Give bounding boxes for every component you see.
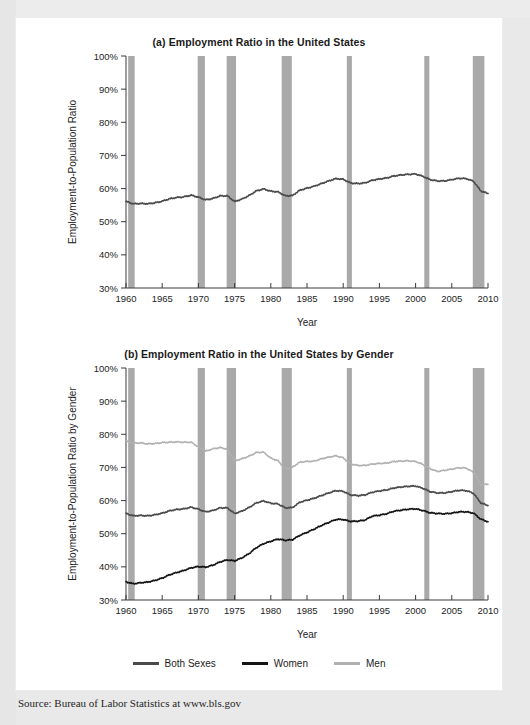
legend-swatch-women — [242, 662, 268, 665]
recession-band — [347, 368, 352, 600]
x-tick-label: 2010 — [477, 293, 498, 304]
recession-band — [198, 56, 205, 288]
x-tick-label: 1960 — [115, 293, 136, 304]
y-tick-label: 60% — [99, 495, 119, 506]
legend-item-men: Men — [334, 658, 385, 669]
legend-swatch-men — [334, 662, 360, 665]
chart-panel-a: (a) Employment Ratio in the United State… — [16, 36, 502, 346]
source-note: Source: Bureau of Labor Statistics at ww… — [18, 697, 241, 709]
y-tick-label: 80% — [99, 117, 119, 128]
x-tick-label: 1980 — [260, 293, 281, 304]
recession-band — [282, 56, 292, 288]
recession-band — [282, 368, 292, 600]
series-line-women — [126, 508, 488, 584]
x-axis-title: Year — [297, 317, 318, 328]
y-tick-label: 90% — [99, 84, 119, 95]
y-tick-label: 40% — [99, 249, 119, 260]
legend-item-women: Women — [242, 658, 308, 669]
y-tick-label: 100% — [94, 51, 119, 62]
y-tick-label: 70% — [99, 150, 119, 161]
recession-band — [473, 56, 485, 288]
x-tick-label: 1985 — [296, 605, 317, 616]
recession-band — [227, 56, 236, 288]
y-tick-label: 60% — [99, 183, 119, 194]
series-line-both-sexes — [126, 486, 488, 517]
recession-band — [424, 368, 429, 600]
y-tick-label: 40% — [99, 561, 119, 572]
chart-legend: Both Sexes Women Men — [16, 658, 502, 669]
x-tick-label: 1995 — [369, 605, 390, 616]
x-tick-label: 1975 — [224, 293, 245, 304]
series-line-both-sexes — [126, 173, 488, 204]
x-tick-label: 1990 — [333, 293, 354, 304]
legend-item-both-sexes: Both Sexes — [133, 658, 216, 669]
y-axis-title: Employment-to-Population Ratio — [67, 100, 78, 244]
x-tick-label: 1995 — [369, 293, 390, 304]
y-tick-label: 70% — [99, 462, 119, 473]
chart-a-title: (a) Employment Ratio in the United State… — [16, 36, 502, 48]
legend-label-men: Men — [366, 658, 385, 669]
x-tick-label: 2005 — [441, 605, 462, 616]
chart-b-title: (b) Employment Ratio in the United State… — [16, 348, 502, 360]
x-tick-label: 1970 — [188, 293, 209, 304]
y-tick-label: 30% — [99, 283, 119, 294]
x-tick-label: 1980 — [260, 605, 281, 616]
chart-panel-b: (b) Employment Ratio in the United State… — [16, 348, 502, 648]
legend-swatch-both-sexes — [133, 662, 159, 665]
y-tick-label: 90% — [99, 396, 119, 407]
y-tick-label: 30% — [99, 595, 119, 606]
x-tick-label: 1970 — [188, 605, 209, 616]
y-tick-label: 50% — [99, 216, 119, 227]
x-tick-label: 2005 — [441, 293, 462, 304]
y-axis-title: Employment-to-Population Ratio by Gender — [67, 387, 78, 581]
x-tick-label: 1975 — [224, 605, 245, 616]
chart-b-svg: 30%40%50%60%70%80%90%100%196019651970197… — [16, 360, 502, 640]
x-tick-label: 1965 — [152, 605, 173, 616]
x-axis-title: Year — [297, 629, 318, 640]
recession-band — [198, 368, 205, 600]
chart-a-svg: 30%40%50%60%70%80%90%100%196019651970197… — [16, 48, 502, 338]
legend-label-both-sexes: Both Sexes — [165, 658, 216, 669]
recession-band — [347, 56, 352, 288]
x-tick-label: 1990 — [333, 605, 354, 616]
recession-band — [424, 56, 429, 288]
x-tick-label: 1960 — [115, 605, 136, 616]
y-tick-label: 100% — [94, 363, 119, 374]
document-page: (a) Employment Ratio in the United State… — [16, 18, 502, 690]
x-tick-label: 1965 — [152, 293, 173, 304]
y-tick-label: 50% — [99, 528, 119, 539]
series-line-men — [126, 441, 488, 486]
recession-band — [128, 368, 135, 600]
x-tick-label: 2010 — [477, 605, 498, 616]
x-tick-label: 2000 — [405, 605, 426, 616]
x-tick-label: 1985 — [296, 293, 317, 304]
x-tick-label: 2000 — [405, 293, 426, 304]
recession-band — [128, 56, 135, 288]
y-tick-label: 80% — [99, 429, 119, 440]
legend-label-women: Women — [274, 658, 308, 669]
recession-band — [227, 368, 236, 600]
